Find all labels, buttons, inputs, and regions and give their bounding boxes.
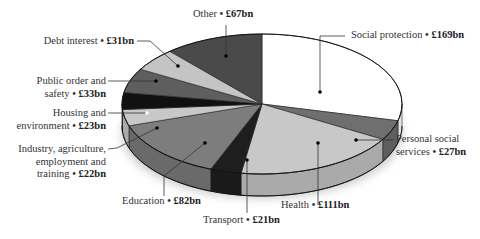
label-industry-line2: employment and — [18, 156, 106, 169]
label-pss: Personal social services • £27bn — [396, 133, 466, 158]
label-industry-line3: training — [37, 168, 70, 179]
dot-education — [203, 141, 207, 145]
dot-housing — [145, 111, 149, 115]
label-debt-name: Debt interest — [44, 35, 98, 46]
label-other-name: Other — [193, 8, 217, 19]
dot-debt — [176, 64, 180, 68]
separator: • — [167, 195, 171, 206]
dot-pss — [354, 138, 358, 142]
label-housing-value: £23bn — [79, 120, 106, 131]
separator: • — [312, 199, 316, 210]
label-pss-line1: Personal social — [396, 133, 466, 146]
label-housing: Housing and environment • £23bn — [17, 107, 106, 132]
label-debt: Debt interest • £31bn — [44, 35, 134, 48]
separator: • — [72, 88, 76, 99]
label-social-name: Social protection — [351, 29, 422, 40]
label-other: Other • £67bn — [193, 8, 253, 21]
separator: • — [246, 214, 250, 225]
label-public-order-value: £33bn — [79, 88, 106, 99]
dot-transport — [245, 158, 249, 162]
label-education: Education • £82bn — [122, 195, 201, 208]
label-transport-name: Transport — [203, 214, 243, 225]
label-industry: Industry, agriculture, employment and tr… — [18, 143, 106, 181]
label-education-name: Education — [122, 195, 165, 206]
dot-social — [318, 90, 322, 94]
separator: • — [100, 35, 104, 46]
label-social: Social protection • £169bn — [351, 29, 464, 42]
label-public-order-line2: safety — [45, 88, 70, 99]
label-health-value: £111bn — [318, 199, 350, 210]
label-industry-line1: Industry, agriculture, — [18, 143, 106, 156]
label-debt-value: £31bn — [107, 35, 134, 46]
separator: • — [72, 168, 76, 179]
separator: • — [432, 146, 436, 157]
label-education-value: £82bn — [174, 195, 201, 206]
label-public-order-line1: Public order and — [37, 75, 106, 88]
label-housing-line1: Housing and — [17, 107, 106, 120]
separator: • — [220, 8, 224, 19]
dot-industry — [155, 126, 159, 130]
separator: • — [425, 29, 429, 40]
label-health-name: Health — [281, 199, 309, 210]
dot-health — [316, 141, 320, 145]
label-transport: Transport • £21bn — [203, 214, 280, 227]
pie-top — [122, 34, 402, 174]
dot-other — [224, 54, 228, 58]
dot-public-order — [154, 79, 158, 83]
label-industry-value: £22bn — [79, 168, 106, 179]
separator: • — [72, 120, 76, 131]
label-transport-value: £21bn — [252, 214, 279, 225]
label-social-value: £169bn — [431, 29, 464, 40]
label-pss-value: £27bn — [439, 146, 466, 157]
label-public-order: Public order and safety • £33bn — [37, 75, 106, 100]
label-health: Health • £111bn — [281, 199, 349, 212]
label-other-value: £67bn — [226, 8, 253, 19]
label-housing-line2: environment — [17, 120, 70, 131]
label-pss-line2: services — [396, 146, 430, 157]
